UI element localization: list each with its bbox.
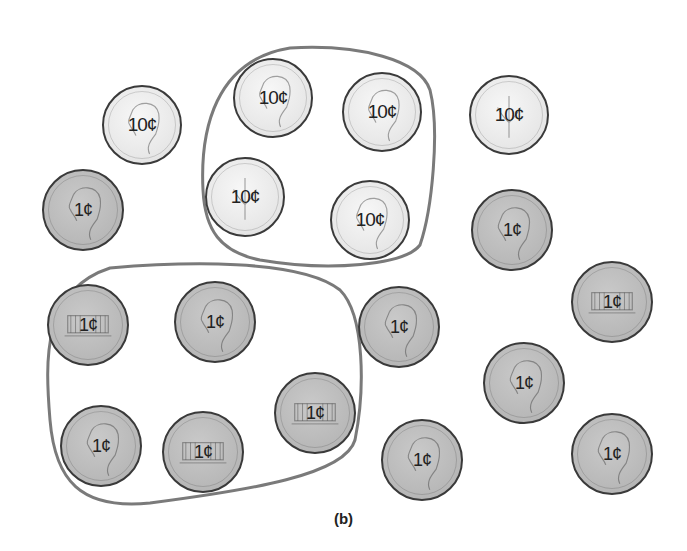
penny-coin: 1¢ <box>174 281 256 363</box>
coin-value-label: 10¢ <box>259 87 288 109</box>
coin-value-label: 1¢ <box>603 444 621 465</box>
coin-value-label: 1¢ <box>603 292 621 313</box>
penny-coin: 1¢ <box>274 372 356 454</box>
coin-value-label: 1¢ <box>306 403 324 424</box>
penny-coin: 1¢ <box>381 419 463 501</box>
coin-value-label: 10¢ <box>231 186 260 208</box>
coin-value-label: 1¢ <box>79 315 97 336</box>
coin-value-label: 10¢ <box>356 209 385 231</box>
penny-coin: 1¢ <box>571 413 653 495</box>
coin-value-label: 1¢ <box>74 200 92 221</box>
penny-coin: 1¢ <box>358 286 440 368</box>
coin-value-label: 10¢ <box>128 114 157 136</box>
coin-value-label: 1¢ <box>515 373 533 394</box>
dime-coin: 10¢ <box>342 72 422 152</box>
penny-coin: 1¢ <box>471 189 553 271</box>
penny-coin: 1¢ <box>42 169 124 251</box>
penny-coin: 1¢ <box>60 405 142 487</box>
penny-coin: 1¢ <box>483 342 565 424</box>
coin-value-label: 10¢ <box>368 101 397 123</box>
penny-coin: 1¢ <box>571 261 653 343</box>
coin-value-label: 10¢ <box>495 104 524 126</box>
dime-coin: 10¢ <box>330 180 410 260</box>
dime-coin: 10¢ <box>102 85 182 165</box>
dime-coin: 10¢ <box>205 157 285 237</box>
coin-value-label: 1¢ <box>503 220 521 241</box>
figure-caption: (b) <box>0 510 687 527</box>
penny-coin: 1¢ <box>162 411 244 493</box>
dime-coin: 10¢ <box>469 75 549 155</box>
coin-value-label: 1¢ <box>194 442 212 463</box>
penny-coin: 1¢ <box>47 284 129 366</box>
dime-coin: 10¢ <box>233 58 313 138</box>
coin-value-label: 1¢ <box>206 312 224 333</box>
coin-value-label: 1¢ <box>92 436 110 457</box>
coin-grouping-figure: 10¢10¢10¢10¢10¢10¢1¢1¢1¢1¢1¢1¢1¢1¢1¢1¢1¢… <box>0 0 687 551</box>
coin-value-label: 1¢ <box>413 450 431 471</box>
coin-value-label: 1¢ <box>390 317 408 338</box>
